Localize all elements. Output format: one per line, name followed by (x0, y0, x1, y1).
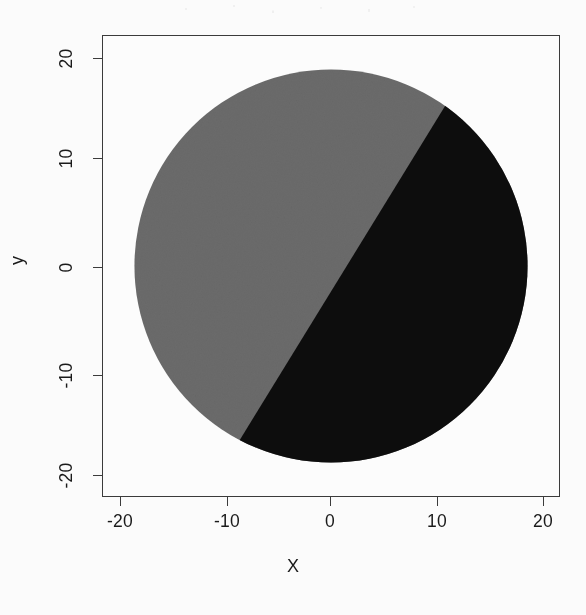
x-tick-label-0: 0 (300, 511, 360, 532)
x-tick-mark-neg10 (227, 497, 228, 506)
x-tick-label-10: 10 (407, 511, 467, 532)
x-tick-label-neg10: -10 (197, 511, 257, 532)
x-tick-mark-0 (330, 497, 331, 506)
x-tick-label-20: 20 (513, 511, 573, 532)
y-tick-label-0: 0 (56, 248, 77, 288)
y-tick-mark-neg20 (93, 475, 102, 476)
y-tick-label-neg20: -20 (56, 456, 77, 496)
y-tick-mark-neg10 (93, 375, 102, 376)
y-tick-mark-10 (93, 158, 102, 159)
y-tick-mark-20 (93, 58, 102, 59)
figure-canvas: 20 10 0 -10 -20 y -20 -10 0 10 20 X (0, 0, 586, 615)
x-tick-mark-20 (543, 497, 544, 506)
y-tick-label-10: 10 (56, 139, 77, 179)
plot-svg (103, 36, 559, 496)
y-tick-label-20: 20 (56, 39, 77, 79)
x-tick-mark-10 (437, 497, 438, 506)
scan-noise-artifact (150, 2, 450, 16)
y-tick-label-neg10: -10 (56, 356, 77, 396)
y-axis-title: y (7, 256, 28, 265)
plot-frame (102, 35, 560, 497)
x-axis-title: X (0, 556, 586, 577)
x-tick-label-neg20: -20 (90, 511, 150, 532)
y-tick-mark-0 (93, 267, 102, 268)
x-tick-mark-neg20 (120, 497, 121, 506)
